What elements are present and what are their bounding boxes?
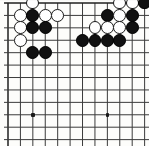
black-stone[interactable] (89, 34, 102, 47)
black-stone[interactable] (101, 9, 114, 22)
white-stone[interactable] (14, 34, 27, 47)
black-stone[interactable] (101, 34, 114, 47)
star-point (106, 113, 110, 117)
white-stone[interactable] (39, 9, 52, 22)
black-stone[interactable] (39, 21, 52, 34)
black-stone[interactable] (39, 46, 52, 59)
black-stone[interactable] (113, 34, 126, 47)
white-stone[interactable] (14, 9, 27, 22)
white-stone[interactable] (14, 21, 27, 34)
black-stone[interactable] (126, 9, 139, 22)
black-stone[interactable] (138, 0, 149, 9)
white-stone[interactable] (113, 9, 126, 22)
white-stone[interactable] (101, 21, 114, 34)
star-point (31, 113, 35, 117)
black-stone[interactable] (126, 21, 139, 34)
black-stone[interactable] (26, 9, 39, 22)
white-stone[interactable] (51, 9, 64, 22)
go-board[interactable] (0, 0, 149, 146)
black-stone[interactable] (76, 34, 89, 47)
